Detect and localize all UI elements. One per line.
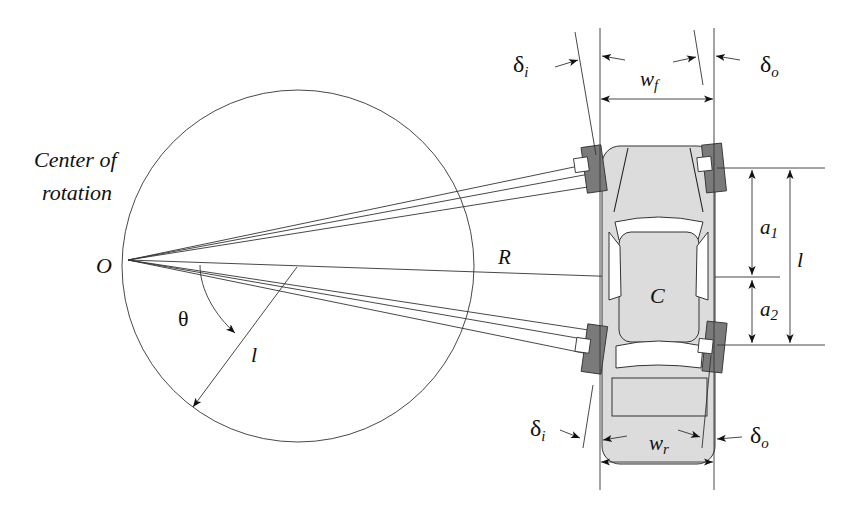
delta-o-top-label: δo: [760, 51, 779, 80]
center-mass-label: C: [650, 283, 665, 308]
a1-label: a1: [760, 215, 778, 241]
front-left-wheel: [572, 145, 607, 195]
delta-o-bottom-label: δo: [750, 422, 769, 451]
origin-label: O: [96, 253, 112, 278]
wf-label: wf: [640, 67, 660, 93]
center-of-rotation-label-line1: Center of: [34, 147, 119, 172]
radius-R-line: [128, 260, 655, 278]
circle-radius-line: [193, 267, 297, 407]
center-of-rotation-label-line2: rotation: [42, 180, 112, 205]
a2-label: a2: [760, 297, 779, 323]
radius-label: R: [497, 245, 511, 269]
circle-radius-label: l: [251, 342, 257, 367]
rear-left-wheel: [572, 323, 607, 375]
wheelbase-label: l: [797, 247, 803, 272]
delta-i-top-label: δi: [513, 51, 528, 80]
delta-i-bottom-label: δi: [530, 415, 545, 444]
vehicle-steering-diagram: Center of rotation O R θ l C l a1 a2 wf …: [0, 0, 855, 516]
theta-label: θ: [178, 306, 189, 331]
